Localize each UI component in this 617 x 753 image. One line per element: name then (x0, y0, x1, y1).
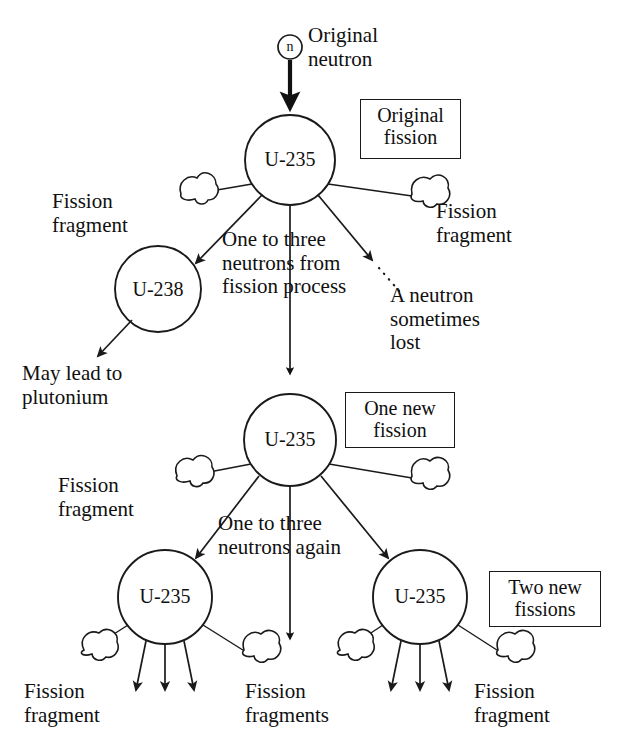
fragment-stem-gen1-right (329, 464, 412, 478)
boxed-label-original-fission: Original fission (360, 99, 461, 159)
arrow-to-plutonium (98, 320, 132, 356)
label-fission-fragment-bottom-right: Fission fragment (474, 680, 609, 727)
neutron-marker-label: n (287, 39, 294, 54)
boxed-label-two-new-fissions: Two new fissions (489, 571, 601, 627)
label-may-lead-to-plutonium: May lead to plutonium (22, 362, 202, 409)
label-original-neutron: Original neutron (308, 24, 458, 71)
label-fission-fragment-bottom-left: Fission fragment (24, 680, 149, 727)
fission-chain-diagram: n U-235 U-238 U-235 U-235 (0, 0, 617, 753)
fission-fragment-blob-gen1-right (411, 458, 450, 490)
nucleus-u235-gen0-label: U-235 (264, 148, 315, 170)
fragment-stem-gen2-right-b (458, 625, 500, 652)
nucleus-u235-gen2-left-label: U-235 (139, 585, 190, 607)
fission-fragment-blob-gen0-left (180, 173, 218, 204)
label-neutron-sometimes-lost: A neutron sometimes lost (390, 284, 520, 355)
fission-fragment-blob-gen2-right-b (497, 631, 535, 663)
label-one-to-three-neutrons-again: One to three neutrons again (218, 512, 418, 559)
neutron-arrow-gen2-right-3 (439, 641, 449, 690)
original-neutron-group: n (278, 35, 302, 106)
nucleus-u235-gen1-label: U-235 (264, 428, 315, 450)
nucleus-u235-gen2-right-label: U-235 (394, 585, 445, 607)
fragment-stem-gen0-right (328, 184, 412, 196)
label-fission-fragment-mid-left: Fission fragment (58, 474, 183, 521)
label-fission-fragment-top-left: Fission fragment (52, 190, 177, 237)
boxed-label-one-new-fission: One new fission (345, 392, 455, 448)
fission-fragment-blob-gen2-left-a (81, 630, 118, 661)
neutron-arrow-gen2-left-3 (184, 641, 194, 690)
fission-fragment-blob-gen2-right-a (337, 630, 374, 661)
fragment-stem-gen2-left-b (203, 625, 246, 652)
nucleus-u238-label: U-238 (132, 278, 183, 300)
label-fission-fragments-bottom-center: Fission fragments (245, 680, 395, 727)
label-fission-fragment-top-right: Fission fragment (436, 200, 571, 247)
fission-fragment-blob-gen2-left-b (243, 631, 281, 663)
